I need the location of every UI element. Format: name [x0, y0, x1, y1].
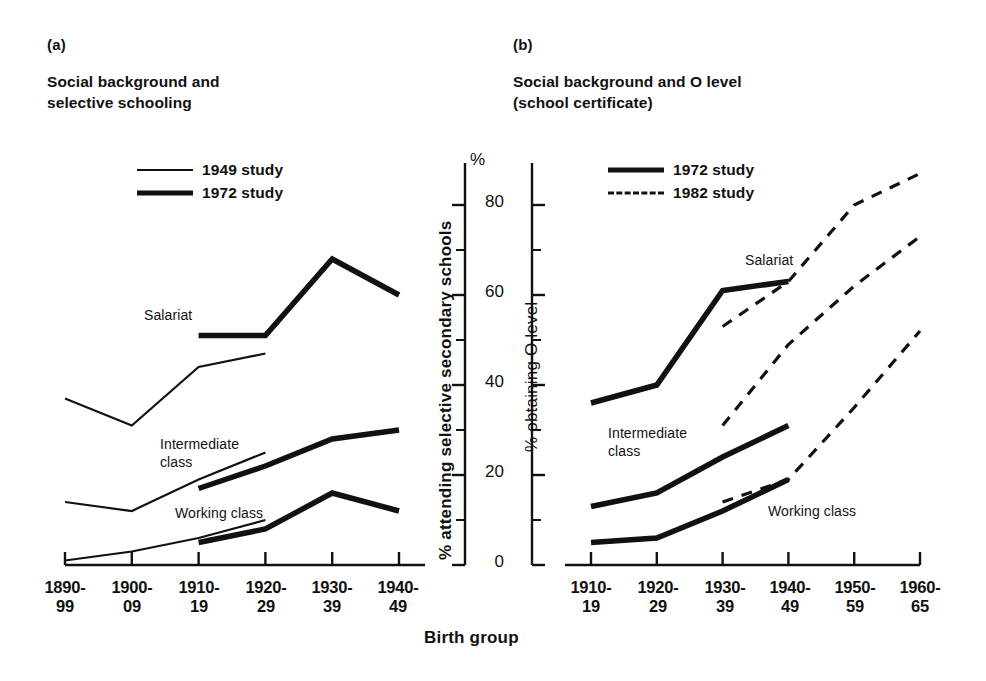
series-line-b-working-class-1972: [591, 480, 788, 543]
series-line-a-salariat-1949: [65, 354, 265, 426]
series-line-a-salariat-1972: [199, 259, 399, 336]
series-line-a-intermediate-class-1972: [199, 430, 399, 489]
series-line-a-intermediate-class-1949: [65, 453, 265, 512]
plot-lines-layer: [0, 0, 986, 681]
series-line-b-working-class-1982: [723, 331, 920, 502]
figure-canvas: (a) Social background and selective scho…: [0, 0, 986, 681]
series-line-b-intermediate-class-1982: [723, 237, 920, 426]
series-line-a-working-class-1949: [65, 520, 265, 561]
series-line-a-working-class-1972: [199, 493, 399, 543]
series-line-b-salariat-1972: [591, 282, 788, 404]
series-line-b-salariat-1982: [723, 174, 920, 327]
